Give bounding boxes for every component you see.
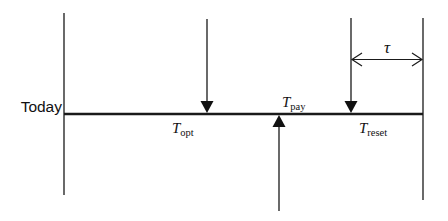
t-pay-label: Tpay [282,94,306,112]
t-pay-arrow [273,115,286,211]
t-reset-arrow [345,18,358,113]
t-opt-label: Topt [172,120,194,138]
arrow-down-icon [201,101,214,113]
timeline-diagram: Today Topt Tpay Treset τ [0,0,448,221]
t-opt-arrow [201,19,214,113]
t-reset-label: Treset [359,120,387,138]
today-label: Today [21,98,63,115]
tau-label: τ [384,38,391,57]
arrow-up-icon [273,115,286,127]
arrow-down-icon [345,101,358,113]
